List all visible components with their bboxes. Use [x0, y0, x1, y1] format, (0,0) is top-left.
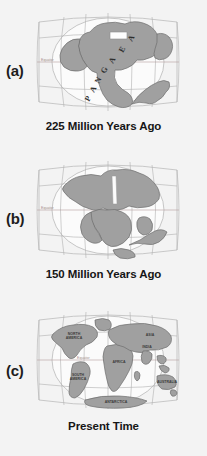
- panel-label-a: (a): [6, 62, 23, 79]
- equator-label-c: Equator: [77, 356, 90, 360]
- label-australia: AUSTRALIA: [157, 380, 178, 384]
- svg-text:AMERICA: AMERICA: [66, 336, 83, 340]
- panel-rifting: (b) Equator: [0, 148, 207, 296]
- panel-label-c: (c): [6, 362, 23, 379]
- caption-c: Present Time: [0, 420, 207, 432]
- globe-map-c: Equator: [33, 306, 183, 414]
- globe-map-b: Equator: [33, 156, 183, 264]
- plate-tectonics-figure: (a) Equator: [0, 0, 207, 456]
- panel-pangaea: (a) Equator: [0, 0, 207, 148]
- caption-b: 150 Million Years Ago: [0, 268, 207, 280]
- label-india: INDIA: [142, 345, 152, 349]
- equator-label-a: Equator: [41, 58, 54, 62]
- panel-present: (c) Equator: [0, 296, 207, 456]
- label-antarctica: ANTARCTICA: [105, 400, 128, 404]
- globe-map-a: Equator P A N G A E: [33, 8, 183, 116]
- equator-label-b: Equator: [41, 206, 54, 210]
- svg-text:AMERICA: AMERICA: [70, 377, 87, 381]
- label-asia: ASIA: [146, 333, 155, 337]
- panel-label-b: (b): [6, 210, 24, 227]
- label-africa: AFRICA: [112, 360, 126, 364]
- caption-a: 225 Million Years Ago: [0, 120, 207, 132]
